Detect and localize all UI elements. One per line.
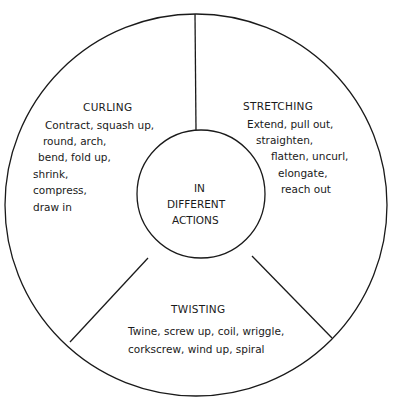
center-line-1: IN — [194, 181, 205, 196]
twisting-heading: TWISTING — [171, 302, 225, 317]
center-line-3: ACTIONS — [172, 213, 219, 228]
curling-line-1: Contract, squash up, — [45, 118, 154, 133]
curling-line-2: round, arch, — [43, 134, 106, 149]
stretching-line-2: straighten, — [256, 133, 313, 148]
curling-line-5: compress, — [33, 183, 87, 198]
center-line-2: DIFFERENT — [167, 197, 225, 212]
curling-line-3: bend, fold up, — [38, 150, 111, 165]
twisting-line-1: Twine, screw up, coil, wriggle, — [128, 324, 284, 339]
stretching-line-3: flatten, uncurl, — [271, 149, 348, 164]
stretching-line-1: Extend, pull out, — [247, 117, 333, 132]
twisting-line-2: corkscrew, wind up, spiral — [128, 342, 265, 357]
curling-heading: CURLING — [83, 100, 132, 115]
stretching-line-5: reach out — [281, 182, 331, 197]
curling-line-6: draw in — [33, 200, 72, 215]
stretching-line-4: elongate, — [278, 166, 327, 181]
curling-line-4: shrink, — [33, 167, 68, 182]
stretching-heading: STRETCHING — [243, 99, 313, 114]
divider-top — [195, 14, 196, 130]
